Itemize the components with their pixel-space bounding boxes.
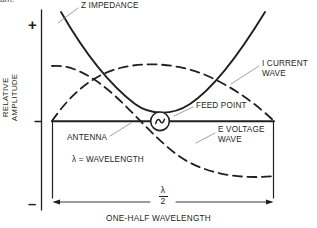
- dimension-denominator: 2: [152, 197, 174, 206]
- antenna-leader: [110, 123, 131, 136]
- y-axis-label: RELATIVE AMPLITUDE: [1, 65, 20, 129]
- e-voltage-wave-leader: [196, 133, 215, 143]
- axis-positive-sign: +: [28, 17, 37, 32]
- wavelength-key-label: λ = WAVELENGTH: [72, 155, 144, 165]
- i-current-wave-label: I CURRENT WAVE: [262, 59, 308, 80]
- dimension-arrow-left: [53, 199, 61, 204]
- dimension-numerator: λ: [152, 186, 174, 195]
- axis-negative-sign: –: [28, 196, 36, 211]
- clipped-caption-fragment: am.: [0, 0, 14, 4]
- i-current-wave-leader: [231, 66, 259, 84]
- dimension-arrow-right: [266, 199, 274, 204]
- figure-canvas: am. RELATIVE AMPLITUDE + – Z IMPEDANCE I…: [0, 0, 317, 228]
- e-voltage-wave-label: E VOLTAGE WAVE: [218, 125, 265, 146]
- half-wavelength-dimension: λ 2: [152, 186, 174, 206]
- feed-point-label: FEED POINT: [196, 101, 247, 111]
- z-impedance-curve: [61, 12, 265, 113]
- antenna-label: ANTENNA: [67, 133, 107, 143]
- z-impedance-leader: [58, 8, 78, 23]
- z-impedance-label: Z IMPEDANCE: [81, 1, 139, 11]
- bottom-caption: ONE-HALF WAVELENGTH: [0, 214, 317, 223]
